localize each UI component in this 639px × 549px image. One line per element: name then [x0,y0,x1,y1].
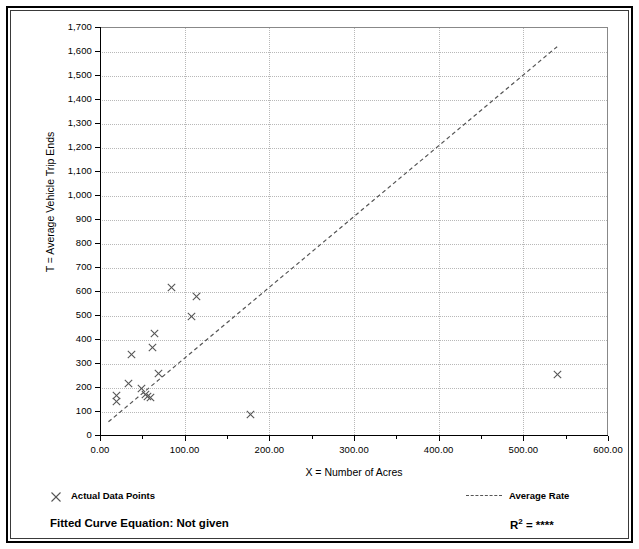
x-tick-label: 500.00 [508,444,538,455]
x-tick-minor-mark [481,436,482,439]
y-tick-mark [95,195,100,196]
x-tick-label: 0.00 [91,444,110,455]
y-tick-label: 600 [76,285,92,296]
x-marker-icon [50,489,62,501]
legend-row: Actual Data Points Average Rate [0,489,639,509]
x-tick-mark [439,436,440,441]
y-tick-label: 200 [76,381,92,392]
y-tick-mark [95,171,100,172]
y-tick-label: 0 [87,429,92,440]
y-tick-label: 1,500 [68,69,92,80]
y-tick-mark [95,123,100,124]
y-tick-mark [95,147,100,148]
x-axis-title: X = Number of Acres [100,466,608,478]
x-tick-mark [608,436,609,441]
y-tick-label: 1,600 [68,45,92,56]
legend-average-rate: Average Rate [466,490,569,501]
y-tick-label: 700 [76,261,92,272]
x-tick-label: 600.00 [593,444,623,455]
y-tick-label: 400 [76,333,92,344]
y-tick-label: 1,000 [68,189,92,200]
x-tick-mark [354,436,355,441]
y-tick-label: 500 [76,309,92,320]
x-tick-mark [269,436,270,441]
y-tick-label: 800 [76,237,92,248]
figure-page: 01002003004005006007008009001,0001,1001,… [0,0,639,549]
y-tick-mark [95,291,100,292]
dashed-line-icon [466,495,502,496]
y-tick-mark [95,75,100,76]
fitted-curve-equation: Fitted Curve Equation: Not given [50,517,229,529]
y-tick-label: 1,100 [68,165,92,176]
r-squared-value: R2 = **** [510,517,554,531]
y-tick-label: 1,200 [68,141,92,152]
x-tick-minor-mark [566,436,567,439]
x-tick-label: 300.00 [339,444,369,455]
y-tick-mark [95,219,100,220]
x-tick-minor-mark [312,436,313,439]
y-tick-label: 300 [76,357,92,368]
y-axis-line [100,27,101,436]
y-tick-mark [95,363,100,364]
x-tick-label: 400.00 [424,444,454,455]
legend-actual-data-points: Actual Data Points [50,489,155,501]
y-tick-mark [95,243,100,244]
x-tick-label: 100.00 [170,444,200,455]
x-tick-mark [523,436,524,441]
y-tick-label: 1,700 [68,21,92,32]
y-tick-mark [95,27,100,28]
y-tick-mark [95,51,100,52]
y-tick-label: 1,300 [68,117,92,128]
y-tick-label: 100 [76,405,92,416]
y-tick-label: 1,400 [68,93,92,104]
y-tick-label: 900 [76,213,92,224]
y-tick-mark [95,387,100,388]
r-squared-number: = **** [523,519,554,531]
legend-average-rate-label: Average Rate [509,490,569,501]
legend-actual-data-points-label: Actual Data Points [71,490,155,501]
x-tick-label: 200.00 [254,444,284,455]
y-axis-title: T = Average Vehicle Trip Ends [44,82,56,322]
scatter-chart: 01002003004005006007008009001,0001,1001,… [0,0,639,549]
plot-area [100,27,608,435]
equation-row: Fitted Curve Equation: Not given R2 = **… [0,517,639,537]
x-tick-minor-mark [396,436,397,439]
y-tick-mark [95,339,100,340]
y-tick-mark [95,315,100,316]
y-tick-mark [95,411,100,412]
x-tick-mark [100,436,101,441]
x-tick-minor-mark [142,436,143,439]
x-tick-minor-mark [227,436,228,439]
y-tick-mark [95,99,100,100]
x-tick-mark [185,436,186,441]
y-tick-mark [95,267,100,268]
average-rate-trendline [100,28,607,435]
